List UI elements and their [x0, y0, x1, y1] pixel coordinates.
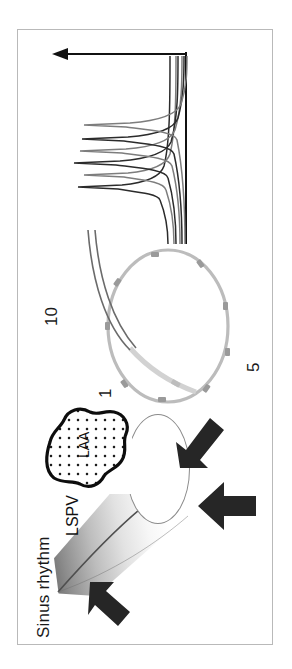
- lspv-label: LSPV: [64, 495, 82, 536]
- rotated-artwork-canvas: Sinus rhythm LSPV LAA: [18, 30, 272, 644]
- catheter-panel: 1 5 10: [18, 226, 272, 422]
- electrode-number-10: 10: [42, 307, 62, 326]
- electrogram-vector: [18, 30, 272, 252]
- catheter-proximal-shaft: [130, 348, 196, 392]
- figure-root: Sinus rhythm LSPV LAA: [0, 0, 292, 669]
- laa-label: LAA: [76, 432, 92, 458]
- appendage-activation-arrow: [170, 414, 228, 472]
- egm-axis-arrowhead: [52, 48, 68, 60]
- sinus-activation-arrow: [84, 578, 138, 632]
- figure-panel-border: Sinus rhythm LSPV LAA: [17, 29, 273, 645]
- electrode-number-5: 5: [244, 363, 264, 372]
- anatomy-panel: Sinus rhythm LSPV LAA: [18, 416, 272, 644]
- inferior-activation-arrow: [196, 480, 258, 532]
- egm-traces: [74, 56, 187, 244]
- electrogram-panel: [18, 30, 272, 252]
- sinus-rhythm-title: Sinus rhythm: [34, 536, 54, 638]
- electrode-number-1: 1: [96, 389, 116, 398]
